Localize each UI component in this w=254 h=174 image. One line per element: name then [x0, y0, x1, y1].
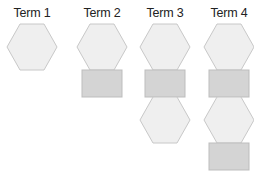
term-3-hexagon-1	[140, 24, 190, 70]
term-4-hexagon-1	[204, 24, 254, 70]
pattern-diagram	[0, 0, 254, 174]
term-1-hexagon-1	[7, 24, 57, 70]
term-3-hexagon-3	[140, 97, 190, 143]
term-4-square-4	[209, 143, 249, 170]
term-2-hexagon-1	[77, 24, 127, 70]
term-3-square-2	[145, 70, 185, 97]
term-2-square-2	[82, 70, 122, 97]
term-4-hexagon-3	[204, 97, 254, 143]
term-4-square-2	[209, 70, 249, 97]
